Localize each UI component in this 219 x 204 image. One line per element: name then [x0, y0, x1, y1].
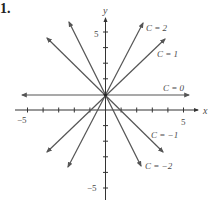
curve-label-c0: C = 0	[163, 83, 185, 93]
curve-label-c2: C = 2	[146, 23, 168, 33]
x-axis-label: x	[202, 105, 208, 116]
x-tick-label-5: 5	[181, 117, 186, 127]
y-axis-label: y	[102, 5, 108, 16]
y-tick-label-neg5: −5	[87, 183, 97, 193]
y-tick-label-5: 5	[94, 29, 99, 39]
curve-label-cneg2: C = −2	[145, 161, 173, 171]
intersection-point	[104, 93, 107, 96]
curve-label-cneg1: C = −1	[151, 130, 178, 140]
curve-cneg2: C = −2	[69, 22, 173, 171]
line-family-diagram: x −5 5 y 5 −5 C = 2 C = 1 C = 0	[0, 0, 219, 204]
y-axis: y 5 −5	[87, 5, 108, 200]
curve-label-c1: C = 1	[157, 49, 178, 59]
x-tick-label-neg5: −5	[17, 115, 27, 125]
